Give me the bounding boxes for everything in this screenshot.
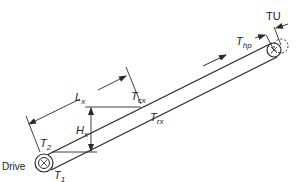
trx-label: Trx <box>150 111 164 126</box>
tu-dimension <box>255 24 288 50</box>
lx-extension-left <box>26 116 40 152</box>
lx-label: Lx <box>75 91 86 106</box>
tu-label: TU <box>266 10 281 22</box>
drive-pulley <box>35 154 53 172</box>
thp-label: Thp <box>236 35 252 50</box>
tcx-label: Tcx <box>131 90 147 105</box>
conveyor-diagram: TU Thp Tcx Trx Lx Hx T2 T1 Drive <box>0 0 300 182</box>
direction-arrow-icon <box>203 55 226 66</box>
belt-lower-line <box>51 57 277 170</box>
t2-label: T2 <box>40 137 52 152</box>
drive-label: Drive <box>2 161 26 172</box>
t1-label: T1 <box>54 169 65 182</box>
conveyor-belt <box>47 43 277 170</box>
